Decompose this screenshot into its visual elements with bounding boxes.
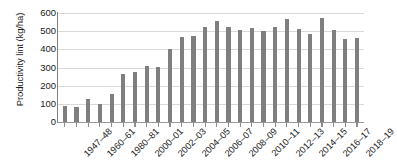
bar xyxy=(250,28,254,122)
x-tick-mark xyxy=(333,122,334,127)
x-tick-mark xyxy=(356,122,357,127)
bar-slot xyxy=(246,13,258,122)
bar-slot xyxy=(258,13,270,122)
bar-slot xyxy=(281,13,293,122)
bar xyxy=(74,107,78,122)
x-tick-mark xyxy=(99,122,100,127)
x-tick-mark xyxy=(111,122,112,127)
bar xyxy=(156,67,160,122)
x-tick-mark xyxy=(216,122,217,127)
bar-slot xyxy=(316,13,328,122)
x-tick-mark xyxy=(251,122,252,127)
bar xyxy=(332,30,336,122)
plot-area xyxy=(58,13,364,122)
bar xyxy=(355,38,359,122)
bar-slot xyxy=(153,13,165,122)
bar xyxy=(145,66,149,122)
bar xyxy=(180,37,184,122)
bar-slot xyxy=(234,13,246,122)
bar xyxy=(98,104,102,122)
y-tick-label-400: 400 xyxy=(40,45,56,55)
x-tick-mark xyxy=(64,122,65,127)
bar xyxy=(86,99,90,122)
bar xyxy=(261,31,265,122)
bar xyxy=(215,21,219,122)
bar-slot xyxy=(199,13,211,122)
x-tick-mark xyxy=(181,122,182,127)
x-tick-mark xyxy=(76,122,77,127)
x-tick-mark xyxy=(205,122,206,127)
bar xyxy=(343,39,347,122)
x-tick-mark xyxy=(88,122,89,127)
bar xyxy=(121,74,125,123)
bar-slot xyxy=(269,13,281,122)
bar-slot xyxy=(304,13,316,122)
y-tick-label-300: 300 xyxy=(40,63,56,73)
x-tick-mark xyxy=(228,122,229,127)
bar-slot xyxy=(129,13,141,122)
bar xyxy=(226,27,230,122)
bar-slot xyxy=(351,13,363,122)
bar xyxy=(63,106,67,122)
bar xyxy=(168,49,172,122)
bar-slot xyxy=(117,13,129,122)
bar-slot xyxy=(71,13,83,122)
bar-slot xyxy=(94,13,106,122)
x-tick-mark xyxy=(158,122,159,127)
bar-slot xyxy=(328,13,340,122)
x-tick-mark xyxy=(286,122,287,127)
x-tick-mark xyxy=(240,122,241,127)
bar xyxy=(191,36,195,122)
bar-slot xyxy=(223,13,235,122)
x-tick-mark xyxy=(321,122,322,127)
y-tick-label-600: 600 xyxy=(40,8,56,18)
bar xyxy=(308,34,312,122)
bar xyxy=(110,94,114,122)
x-tick-mark xyxy=(263,122,264,127)
bar-slot xyxy=(293,13,305,122)
bar-slot xyxy=(188,13,200,122)
y-tick-label-200: 200 xyxy=(40,81,56,91)
bar-slot xyxy=(82,13,94,122)
bar-slot xyxy=(106,13,118,122)
x-tick-mark xyxy=(146,122,147,127)
x-tick-mark xyxy=(275,122,276,127)
y-tick-label-100: 100 xyxy=(40,99,56,109)
bar xyxy=(273,27,277,122)
bar xyxy=(285,19,289,122)
bar-slot xyxy=(176,13,188,122)
x-tick-mark xyxy=(134,122,135,127)
bar-slot xyxy=(164,13,176,122)
bar xyxy=(133,72,137,123)
x-axis-tick-labels: 1947–481960–611980–812000–012002–032004–… xyxy=(58,127,364,168)
bar-slot xyxy=(141,13,153,122)
bar xyxy=(320,18,324,122)
x-tick-mark xyxy=(345,122,346,127)
bar-slot xyxy=(340,13,352,122)
bar xyxy=(238,30,242,122)
y-axis-title: Productivity lint (kg/ha) xyxy=(14,0,25,121)
y-axis-tick-labels: 0100200300400500600 xyxy=(26,0,56,168)
bar-slot xyxy=(211,13,223,122)
x-tick-mark xyxy=(123,122,124,127)
x-tick-mark xyxy=(169,122,170,127)
x-tick-mark xyxy=(310,122,311,127)
y-tick-label-0: 0 xyxy=(51,117,56,127)
y-tick-label-500: 500 xyxy=(40,26,56,36)
x-tick-mark xyxy=(298,122,299,127)
bar xyxy=(203,27,207,122)
x-tick-mark xyxy=(193,122,194,127)
bar xyxy=(297,29,301,122)
bar-slot xyxy=(59,13,71,122)
bar-series xyxy=(58,13,364,122)
